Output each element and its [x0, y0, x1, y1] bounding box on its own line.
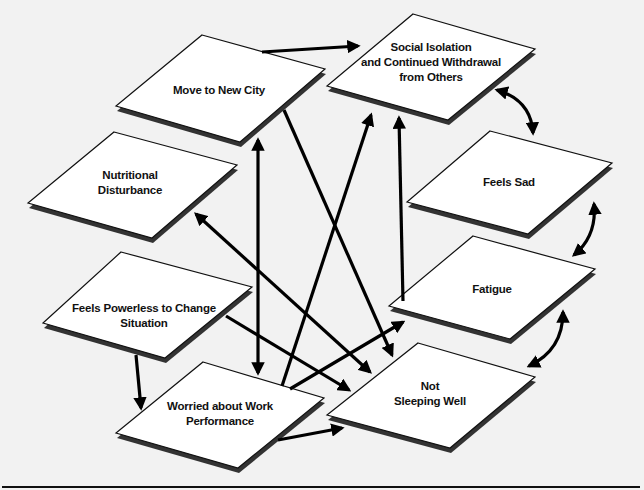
arrow-move-to-isolation	[262, 46, 358, 52]
arrow-fatigue-to-isolation	[399, 118, 403, 301]
node-label-line: Move to New City	[173, 83, 265, 98]
node-label-line: Feels Sad	[483, 175, 535, 190]
node-label-line: Social Isolation	[361, 40, 501, 55]
node-label-powerless: Feels Powerless to ChangeSituation	[72, 301, 216, 331]
node-label-line: Fatigue	[472, 282, 512, 297]
node-label-fatigue: Fatigue	[472, 282, 512, 297]
node-label-worried: Worried about WorkPerformance	[167, 399, 273, 429]
node-label-line: Worried about Work	[167, 399, 273, 414]
arrow-isolation-to-sad	[497, 90, 533, 133]
node-shadows	[29, 19, 613, 473]
node-label-move: Move to New City	[173, 83, 265, 98]
node-label-sleep: NotSleeping Well	[394, 379, 466, 409]
diagram-canvas	[0, 0, 644, 490]
node-label-line: Sleeping Well	[394, 394, 466, 409]
arrow-worried-to-isolation	[282, 115, 371, 386]
node-label-line: Nutritional	[98, 168, 162, 183]
node-label-sad: Feels Sad	[483, 175, 535, 190]
node-label-line: Performance	[167, 414, 273, 429]
node-shapes	[28, 14, 612, 468]
node-label-line: Feels Powerless to Change	[72, 301, 216, 316]
node-label-line: from Others	[361, 70, 501, 85]
node-label-line: and Continued Withdrawal	[361, 55, 501, 70]
arrow-move-to-sleep	[284, 110, 392, 355]
arrow-powerless-to-worried	[136, 355, 141, 408]
node-label-line: Disturbance	[98, 183, 162, 198]
node-label-nutrition: NutritionalDisturbance	[98, 168, 162, 198]
node-label-line: Not	[394, 379, 466, 394]
node-label-line: Situation	[72, 316, 216, 331]
arrow-sad-to-fatigue	[574, 204, 594, 255]
node-label-isolation: Social Isolationand Continued Withdrawal…	[361, 40, 501, 85]
